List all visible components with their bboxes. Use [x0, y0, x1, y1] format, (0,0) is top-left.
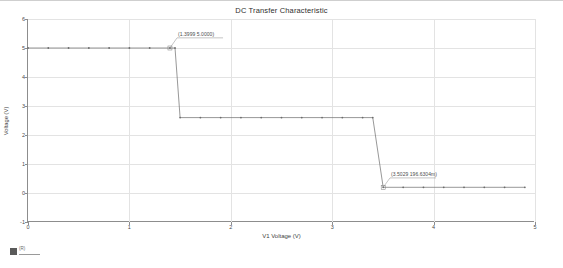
data-point-marker — [174, 47, 176, 49]
data-point-marker — [199, 117, 201, 119]
x-tick-mark — [535, 222, 536, 225]
data-point-marker — [129, 47, 131, 49]
data-point-marker — [88, 47, 90, 49]
data-point-marker — [504, 186, 506, 188]
x-tick-mark — [231, 222, 232, 225]
data-point-marker — [179, 117, 181, 119]
voltage-trace-line — [28, 48, 525, 187]
data-point-marker — [443, 186, 445, 188]
data-point-marker — [281, 117, 283, 119]
watermark-rule — [19, 254, 40, 255]
data-point-marker — [524, 186, 526, 188]
x-tick-mark — [28, 222, 29, 225]
data-point-marker — [423, 186, 425, 188]
second-transition-label: (3.5029 196.6304m) — [391, 171, 437, 177]
data-point-marker — [108, 47, 110, 49]
first-transition-label: (1.3999 5.0000) — [178, 31, 214, 37]
page-title: DC Transfer Characteristic — [0, 6, 563, 15]
data-point-marker — [27, 47, 29, 49]
data-point-marker — [341, 117, 343, 119]
data-point-marker — [483, 186, 485, 188]
data-point-marker — [68, 47, 70, 49]
watermark-superscript: (R) — [19, 246, 25, 251]
data-point-marker — [260, 117, 262, 119]
data-point-marker — [240, 117, 242, 119]
dc-transfer-characteristic-plot: DC Transfer Characteristic Voltage (V) V… — [0, 0, 563, 268]
corner-watermark-artifact: (R) — [10, 246, 42, 257]
annotation-leader-lines — [168, 38, 436, 189]
x-tick-mark — [129, 222, 130, 225]
data-point-marker — [149, 47, 151, 49]
data-point-marker — [220, 117, 222, 119]
annotation-leader-line — [383, 178, 436, 187]
watermark-block — [10, 248, 17, 255]
data-point-marker — [321, 117, 323, 119]
data-point-marker — [372, 117, 374, 119]
annotation-leader-line — [170, 38, 223, 48]
data-point-marker — [362, 117, 364, 119]
data-point-marker — [47, 47, 49, 49]
x-tick-mark — [332, 222, 333, 225]
gridline-vertical — [535, 19, 536, 222]
data-point-marker — [402, 186, 404, 188]
data-point-marker — [463, 186, 465, 188]
y-axis-title: Voltage (V) — [3, 107, 9, 136]
x-tick-mark — [434, 222, 435, 225]
series-trace-layer — [28, 19, 535, 222]
data-point-marker — [301, 117, 303, 119]
plot-area: 6543210-1 012345 (1.3999 5.0000)(3.5029 … — [27, 19, 534, 222]
x-axis-title: V1 Voltage (V) — [0, 233, 563, 239]
